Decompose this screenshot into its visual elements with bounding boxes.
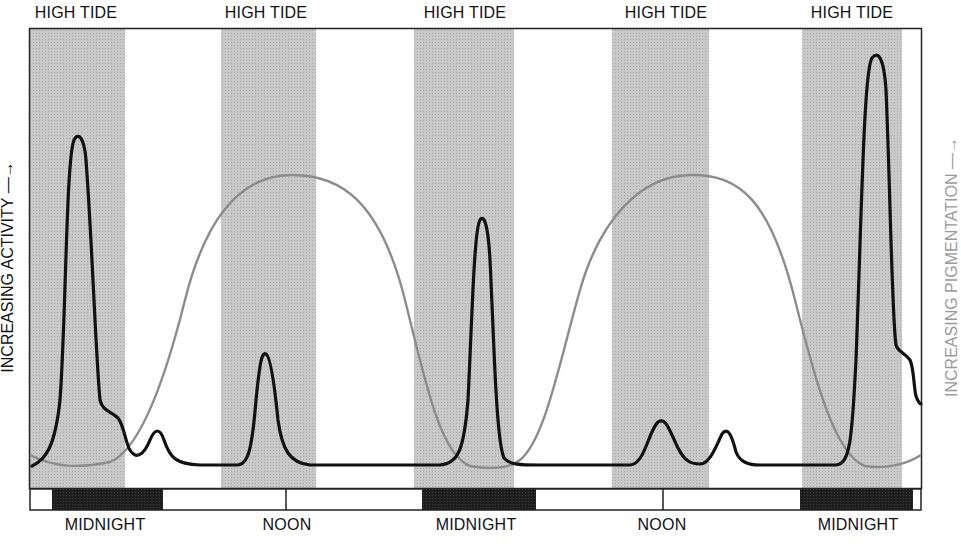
midnight-label-1: MIDNIGHT [65,516,146,534]
day-night-bar [30,489,921,510]
y-axis-left-label: INCREASING ACTIVITY —→ [0,147,17,387]
high-tide-label-1: HIGH TIDE [35,4,117,22]
high-tide-band-2 [221,29,316,488]
high-tide-label-5: HIGH TIDE [811,4,893,22]
y-axis-right-label: INCREASING PIGMENTATION —→ [943,137,961,397]
noon-label-2: NOON [638,516,687,534]
high-tide-label-3: HIGH TIDE [424,4,506,22]
high-tide-band-1 [30,29,125,488]
noon-label-1: NOON [263,516,312,534]
high-tide-label-2: HIGH TIDE [225,4,307,22]
high-tide-label-4: HIGH TIDE [625,4,707,22]
midnight-label-2: MIDNIGHT [436,516,517,534]
night-period-1 [52,489,163,510]
night-period-2 [422,489,536,510]
night-period-3 [800,489,913,510]
midnight-label-3: MIDNIGHT [818,516,899,534]
